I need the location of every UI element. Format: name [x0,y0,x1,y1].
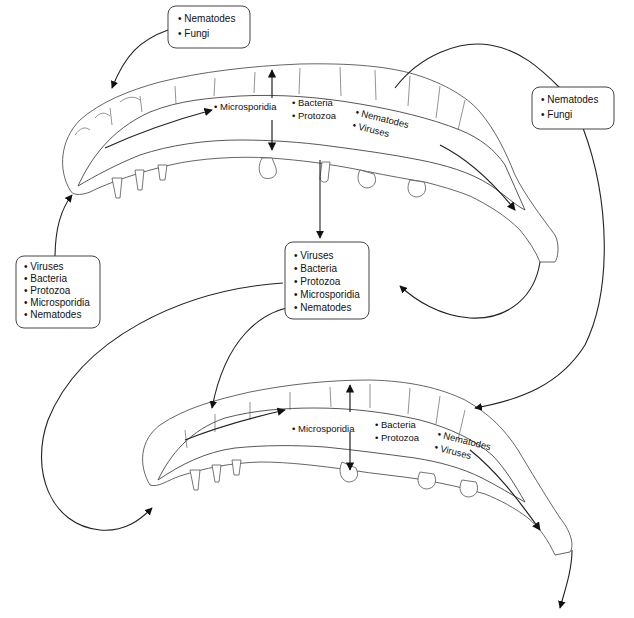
box-top-left-item: • Fungi [178,28,209,39]
transmission-diagram: • Microsporidia • Bacteria • Protozoa • … [0,0,634,618]
box-center-item: • Viruses [294,250,333,261]
box-center-item: • Protozoa [294,276,341,287]
box-left-item: • Protozoa [24,285,71,296]
box-center-item: • Bacteria [294,263,337,274]
box-top-left: • Nematodes • Fungi [168,6,250,48]
box-left-item: • Microsporidia [24,297,90,308]
upper-gut-label-bacteria: • Bacteria [292,97,334,108]
box-right-item: • Fungi [541,109,572,120]
lower-gut-label-microsporidia: • Microsporidia [292,423,355,434]
larva-lower: • Microsporidia • Bacteria • Protozoa • … [143,380,572,555]
box-center-item: • Nematodes [294,302,351,313]
box-center: • Viruses • Bacteria • Protozoa • Micros… [285,242,369,319]
larva-lower-body [143,380,572,555]
arrow-lower-larva-tail-out [560,550,572,608]
lower-gut-label-bacteria: • Bacteria [375,419,417,430]
lower-gut-label-protozoa: • Protozoa [375,432,420,443]
box-right: • Nematodes • Fungi [532,87,614,129]
box-left-item: • Nematodes [24,309,81,320]
box-left-item: • Viruses [24,261,63,272]
upper-gut-label-microsporidia: • Microsporidia [214,101,277,112]
box-left: • Viruses • Bacteria • Protozoa • Micros… [16,256,100,328]
box-top-left-item: • Nematodes [178,13,235,24]
arrow-left-box-to-upper-larva [55,195,72,258]
box-left-item: • Bacteria [24,273,67,284]
arrow-topleft-box-to-upper-larva [112,30,168,88]
larva-upper: • Microsporidia • Bacteria • Protozoa • … [63,64,558,262]
box-center-item: • Microsporidia [294,289,360,300]
upper-gut-label-protozoa: • Protozoa [292,110,337,121]
arrow-upper-tail-to-center-box [400,262,540,318]
box-right-item: • Nematodes [541,94,598,105]
